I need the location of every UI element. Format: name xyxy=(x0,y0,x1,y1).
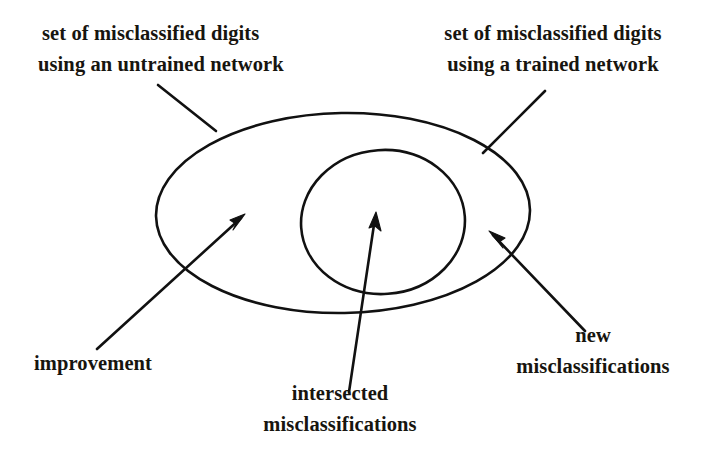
trained-set-caption-line1: set of misclassified digits xyxy=(424,18,682,49)
improvement-arrow xyxy=(97,214,245,349)
improvement-caption-line1: improvement xyxy=(34,348,152,379)
trained-set-caption: set of misclassified digits using a trai… xyxy=(424,18,682,80)
new-misclassifications-caption-line1: new xyxy=(487,320,699,351)
venn-diagram-figure: set of misclassified digits using an unt… xyxy=(0,0,704,457)
improvement-caption: improvement xyxy=(34,348,152,379)
new-misclassifications-caption: new misclassifications xyxy=(487,320,699,382)
trained-network-set-ellipse xyxy=(296,144,470,299)
untrained-set-caption-line1: set of misclassified digits xyxy=(38,18,284,49)
intersected-misclassifications-arrow xyxy=(349,212,381,392)
intersected-misclassifications-caption: intersected misclassifications xyxy=(229,378,451,440)
new-misclassifications-arrow xyxy=(489,231,585,331)
intersected-caption-line1: intersected xyxy=(229,378,451,409)
intersected-caption-line2: misclassifications xyxy=(229,409,451,440)
untrained-set-caption-line2: using an untrained network xyxy=(38,49,284,80)
untrained-set-caption: set of misclassified digits using an unt… xyxy=(38,18,284,80)
untrained-set-leader-line xyxy=(158,85,216,131)
new-misclassifications-caption-line2: misclassifications xyxy=(487,351,699,382)
trained-set-leader-line xyxy=(483,91,545,153)
trained-set-caption-line2: using a trained network xyxy=(424,49,682,80)
